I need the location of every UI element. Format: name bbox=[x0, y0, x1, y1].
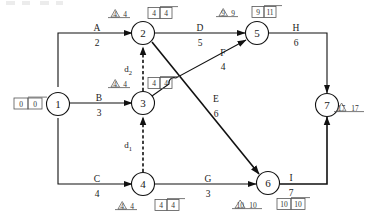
node-4-box-right: 4 bbox=[171, 201, 175, 210]
node-3-box-right: 4 bbox=[164, 79, 168, 88]
edge-D-name: D bbox=[197, 23, 204, 33]
edge-H-name: H bbox=[293, 23, 300, 33]
edge-C-duration: 4 bbox=[95, 189, 100, 199]
annotation-node-7: 17 17 bbox=[334, 103, 364, 113]
edge-d2-subscript: 2 bbox=[129, 69, 132, 76]
edge-F-duration: 4 bbox=[221, 62, 226, 72]
edge-E-name: E bbox=[213, 94, 219, 104]
network-canvas: 1 2 3 4 5 6 7 A 2 B 3 C 4 D 5 F 4 E 6 G … bbox=[0, 0, 374, 220]
edge-d2-label: d2 bbox=[124, 64, 132, 76]
edge-d1-subscript: 1 bbox=[129, 145, 132, 152]
svg-text:d1: d1 bbox=[124, 140, 132, 152]
node-6-box-left: 10 bbox=[280, 200, 288, 209]
edge-A-name: A bbox=[94, 23, 101, 33]
node-1-box-right: 0 bbox=[33, 100, 37, 109]
node-5-box-right: 11 bbox=[266, 8, 273, 17]
node-6-tri-text: 10 bbox=[249, 201, 257, 210]
edge-A-duration: 2 bbox=[95, 38, 100, 48]
node-2-box-right: 4 bbox=[164, 9, 168, 18]
node-6-triangle-value: 10 bbox=[236, 201, 244, 210]
edge-d1-label: d1 bbox=[124, 140, 132, 152]
annotation-node-2: 4 4 4 4 bbox=[108, 7, 178, 19]
node-3-triangle-value: 4 bbox=[113, 80, 117, 89]
node-4-label: 4 bbox=[140, 178, 146, 190]
edge-H-duration: 6 bbox=[294, 38, 299, 48]
annotation-node-1: 0 0 bbox=[14, 97, 47, 109]
node-6-label: 6 bbox=[265, 177, 271, 189]
node-7-triangle-value: 17 bbox=[338, 104, 346, 113]
node-5-label: 5 bbox=[254, 27, 260, 39]
annotation-node-4: 4 4 4 4 bbox=[115, 199, 185, 211]
edge-B-name: B bbox=[96, 93, 102, 103]
node-7-tri-text: 17 bbox=[351, 104, 359, 113]
node-2-box-left: 4 bbox=[152, 9, 156, 18]
scan-artifact bbox=[6, 1, 63, 5]
network-diagram: 1 2 3 4 5 6 7 A 2 B 3 C 4 D 5 F 4 E 6 G … bbox=[0, 0, 374, 220]
node-2-tri-text: 4 bbox=[123, 10, 127, 19]
edge-C-name: C bbox=[94, 174, 100, 184]
node-4-tri-text: 4 bbox=[130, 202, 134, 211]
node-3-tri-text: 4 bbox=[123, 80, 127, 89]
edge-F-name: F bbox=[220, 48, 225, 58]
annotation-node-5: 9 9 9 11 bbox=[216, 6, 282, 18]
svg-text:d2: d2 bbox=[124, 64, 132, 76]
node-1-box-left: 0 bbox=[19, 100, 23, 109]
edge-G-name: G bbox=[205, 174, 212, 184]
node-5-triangle-value: 9 bbox=[221, 9, 225, 18]
node-4-triangle-value: 4 bbox=[120, 202, 124, 211]
annotation-node-6: 10 10 10 10 bbox=[232, 198, 310, 210]
node-4-box-left: 4 bbox=[159, 201, 163, 210]
edge-I-duration: 7 bbox=[289, 188, 294, 198]
node-5-box-left: 9 bbox=[256, 8, 260, 17]
edge-I bbox=[280, 117, 327, 184]
node-6-box-right: 10 bbox=[294, 200, 302, 209]
node-5-tri-text: 9 bbox=[231, 9, 235, 18]
edge-B-duration: 3 bbox=[97, 108, 102, 118]
node-3-label: 3 bbox=[140, 97, 146, 109]
node-2-triangle-value: 4 bbox=[113, 10, 117, 19]
edge-E-duration: 6 bbox=[214, 109, 219, 119]
node-7-label: 7 bbox=[324, 99, 330, 111]
node-3-box-left: 4 bbox=[152, 79, 156, 88]
edge-I-name: I bbox=[289, 173, 292, 183]
node-2-label: 2 bbox=[140, 27, 146, 39]
node-1-label: 1 bbox=[55, 98, 61, 110]
edge-G-duration: 3 bbox=[206, 189, 211, 199]
edge-D-duration: 5 bbox=[198, 38, 203, 48]
